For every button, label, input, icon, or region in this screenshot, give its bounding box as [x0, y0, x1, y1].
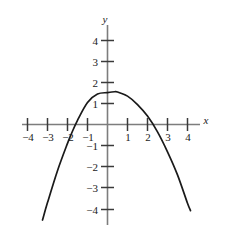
y-axis-label: y: [102, 13, 108, 25]
y-tick-label-4: 4: [93, 35, 99, 47]
x-tick-label-4: 4: [185, 131, 191, 143]
parabola-curve: [43, 92, 191, 221]
y-tick-label-2: 2: [93, 77, 99, 89]
x-tick-label--3: −3: [42, 131, 54, 143]
x-tick-label-2: 2: [145, 131, 151, 143]
x-tick-label-1: 1: [125, 131, 131, 143]
x-tick-label--4: −4: [22, 131, 34, 143]
y-tick-label-1: 1: [93, 98, 99, 110]
y-tick-label--1: −1: [86, 140, 98, 152]
x-tick-labels: −4 −3 −2 −1 1 2 3 4: [22, 131, 191, 143]
y-tick-label--3: −3: [86, 182, 98, 194]
chart-figure: −4 −3 −2 −1 1 2 3 4 4 3 2 1 −1 −2 −3 −4 …: [0, 0, 225, 233]
axes-group: [22, 25, 200, 225]
y-tick-label-3: 3: [93, 56, 99, 68]
x-axis-label: x: [203, 114, 209, 126]
x-tick-label-3: 3: [165, 131, 171, 143]
parabola-plot: −4 −3 −2 −1 1 2 3 4 4 3 2 1 −1 −2 −3 −4 …: [0, 0, 225, 233]
y-tick-label--4: −4: [86, 204, 98, 216]
y-tick-label--2: −2: [86, 161, 98, 173]
